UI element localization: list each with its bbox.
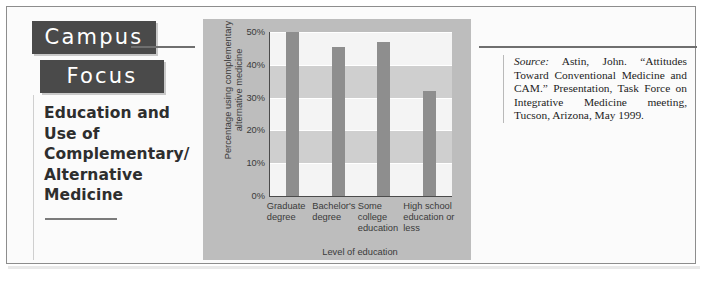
kicker-focus-block: Focus (40, 60, 164, 93)
chart-x-axis-title: Level of education (269, 247, 451, 257)
chart-bar (332, 47, 345, 196)
campus-focus-column: Campus Focus Education and Use of Comple… (32, 15, 184, 258)
left-vertical-rule (33, 95, 34, 260)
page-shadow (8, 266, 700, 269)
source-note-text: Source: Astin, John. “Attitudes Toward C… (514, 55, 687, 123)
chart-panel: Percentage using complementary alternati… (203, 19, 471, 260)
chart-y-tick-label: 0% (252, 191, 265, 201)
chart-y-tick-label: 50% (246, 27, 265, 37)
headline-divider (45, 218, 117, 220)
header-rule-left (131, 46, 195, 48)
chart-bar (286, 32, 299, 196)
chart-y-tick-label: 40% (246, 60, 265, 70)
header-rule-right (479, 46, 697, 48)
chart-x-tick-label: High school education or less (403, 201, 457, 234)
chart-bar (423, 91, 436, 196)
source-note: Source: Astin, John. “Attitudes Toward C… (503, 55, 687, 123)
chart-bar (377, 42, 390, 196)
chart-y-axis-title: Percentage using complementary alternati… (223, 15, 245, 165)
chart-y-tick-label: 20% (246, 125, 265, 135)
chart-plot-area: 0%10%20%30%40%50%Graduate degreeBachelor… (269, 32, 452, 197)
source-label: Source: (514, 55, 549, 67)
page-title: Education and Use of Complementary/ Alte… (44, 103, 186, 206)
kicker-campus-block: Campus (32, 21, 156, 54)
article-frame: Campus Focus Education and Use of Comple… (6, 6, 696, 264)
chart-y-tick-label: 30% (246, 93, 265, 103)
chart-y-tick-label: 10% (246, 158, 265, 168)
page-root: Campus Focus Education and Use of Comple… (0, 0, 707, 291)
